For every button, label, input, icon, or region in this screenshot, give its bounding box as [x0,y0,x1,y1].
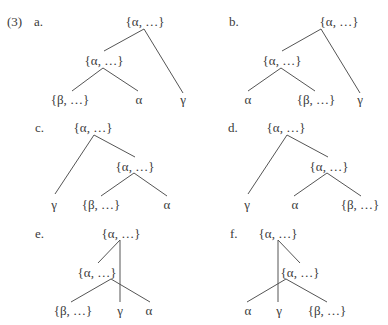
tree-branch [286,279,327,302]
tree-f-node-root: {α, …} [259,227,298,241]
tree-branch [98,240,120,263]
tree-f-node-mid: {α, …} [281,266,320,280]
tree-branch [103,68,138,91]
tree-e-node-root: {α, …} [102,227,141,241]
tree-a-node-leaf-2: α [136,93,143,107]
tree-d-node-leaf-3: {β, …} [341,198,380,212]
tree-e-node-mid: {α, …} [78,266,117,280]
tree-b-node-mid: {α, …} [263,54,302,68]
tree-f-node-leaf-2: γ [276,304,282,318]
tree-d-node-leaf-2: α [292,198,299,212]
tree-branch [248,135,287,194]
tree-branch [71,279,111,302]
tree-branch [281,68,315,91]
tree-b-node-leaf-1: α [245,93,252,107]
tree-b-label: b. [229,15,239,29]
tree-branch [134,173,167,196]
tree-e-node-leaf-3: α [146,304,153,318]
tree-branch [101,173,134,196]
tree-branch [94,135,135,157]
tree-a-node-leaf-3: γ [180,93,186,107]
tree-branch [55,135,94,194]
tree-branch [111,279,150,302]
tree-b-node-leaf-2: {β, …} [297,93,336,107]
tree-f-node-leaf-1: α [245,304,252,318]
tree-a-node-mid: {α, …} [85,54,124,68]
tree-f-node-leaf-3: {β, …} [308,304,347,318]
tree-branch [104,29,144,51]
tree-d-node-root: {α, …} [267,121,306,135]
tree-f-label: f. [230,227,238,241]
tree-branch [294,173,327,196]
tree-d-label: d. [228,121,238,135]
tree-c-label: c. [35,121,44,135]
tree-branch [144,29,183,93]
example-number: (3) [7,15,22,29]
tree-branch [72,68,103,91]
tree-a-node-root: {α, …} [126,15,165,29]
tree-branch [327,173,361,196]
tree-branch [282,29,321,51]
tree-c-node-mid: {α, …} [116,160,155,174]
tree-c-node-leaf-2: {β, …} [82,198,121,212]
tree-a-node-leaf-1: {β, …} [51,93,90,107]
tree-branch [278,240,300,263]
tree-c-node-root: {α, …} [74,121,113,135]
tree-e-node-leaf-2: γ [117,304,123,318]
tree-diagram-figure: (3) a.{α, …}{α, …}{β, …}αγb.{α, …}{α, …}… [0,0,388,325]
tree-b-node-leaf-3: γ [357,93,363,107]
tree-c-node-leaf-3: α [164,198,171,212]
tree-e-label: e. [35,227,44,241]
tree-branch [248,68,281,91]
tree-branch [321,29,360,93]
tree-e-node-leaf-1: {β, …} [54,304,93,318]
tree-b-node-root: {α, …} [320,15,359,29]
tree-c-node-leaf-1: γ [51,198,57,212]
tree-branch [247,279,286,302]
tree-a-label: a. [34,15,43,29]
tree-branch [287,135,328,157]
tree-d-node-leaf-1: γ [244,198,250,212]
tree-d-node-mid: {α, …} [310,160,349,174]
